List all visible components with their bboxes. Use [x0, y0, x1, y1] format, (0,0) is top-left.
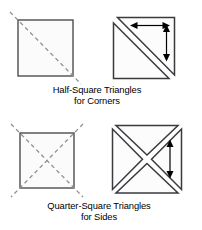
diagram-canvas: Half-Square Triangles for Corners	[0, 0, 202, 230]
caption-half-square-triangles: Half-Square Triangles for Corners	[0, 84, 198, 106]
figure-quarter-square-triangles	[108, 120, 194, 200]
caption-quarter-square-triangles: Quarter-Square Triangles for Sides	[0, 200, 200, 222]
caption-half-square-line1: Half-Square Triangles	[0, 84, 198, 95]
caption-quarter-square-line2: for Sides	[0, 211, 200, 222]
figure-square-with-single-diagonal	[8, 8, 88, 88]
caption-quarter-square-line1: Quarter-Square Triangles	[0, 200, 200, 211]
figure-half-square-triangles	[108, 8, 194, 88]
figure-square-with-both-diagonals	[8, 120, 88, 200]
caption-half-square-line2: for Corners	[0, 95, 198, 106]
